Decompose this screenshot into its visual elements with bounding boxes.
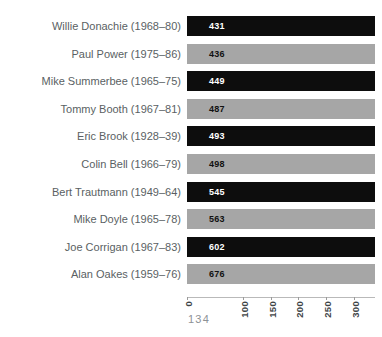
category-label: Mike Summerbee (1965–75): [42, 71, 181, 91]
x-tick-label: 250: [322, 301, 333, 318]
bar-value-label: 436: [209, 44, 225, 64]
x-tick-mark: [298, 297, 299, 300]
bar-value-label: 602: [209, 237, 225, 257]
bar-value-label: 493: [209, 126, 225, 146]
bar-chart: Willie Donachie (1968–80)Paul Power (197…: [0, 0, 382, 337]
bar-row: 545: [187, 182, 375, 202]
bar-value-label: 545: [209, 182, 225, 202]
bar-row: 563: [187, 209, 375, 229]
bar-row: 449: [187, 71, 375, 91]
category-label: Willie Donachie (1968–80): [52, 16, 181, 36]
bar-value-label: 487: [209, 99, 225, 119]
page-number: 134: [188, 313, 210, 325]
x-tick-label: 100: [239, 301, 250, 318]
x-tick-mark: [326, 297, 327, 300]
category-label: Alan Oakes (1959–76): [71, 264, 181, 284]
bar-row: 602: [187, 237, 375, 257]
plot-area: 431436449487493498545563602676: [187, 12, 375, 297]
bar-value-label: 676: [209, 264, 225, 284]
x-tick-mark: [354, 297, 355, 300]
category-axis-labels: Willie Donachie (1968–80)Paul Power (197…: [0, 12, 181, 297]
x-tick-label: 200: [294, 301, 305, 318]
bar-row: 676: [187, 264, 375, 284]
x-tick-mark: [271, 297, 272, 300]
x-tick-mark: [187, 297, 188, 300]
x-tick-mark: [243, 297, 244, 300]
category-label: Mike Doyle (1965–78): [73, 209, 181, 229]
category-label: Joe Corrigan (1967–83): [65, 237, 181, 257]
x-tick-label: 0: [183, 301, 194, 307]
x-tick-label: 300: [350, 301, 361, 318]
bar-value-label: 498: [209, 154, 225, 174]
x-tick-label: 150: [267, 301, 278, 318]
bar-value-label: 431: [209, 16, 225, 36]
category-label: Eric Brook (1928–39): [77, 126, 181, 146]
category-label: Paul Power (1975–86): [72, 44, 181, 64]
bar-value-label: 449: [209, 71, 225, 91]
category-label: Colin Bell (1966–79): [81, 154, 181, 174]
bar-row: 487: [187, 99, 375, 119]
bar-row: 493: [187, 126, 375, 146]
bar-value-label: 563: [209, 209, 225, 229]
x-axis-line: [187, 297, 375, 298]
bar-row: 436: [187, 44, 375, 64]
category-label: Tommy Booth (1967–81): [61, 99, 181, 119]
category-label: Bert Trautmann (1949–64): [52, 182, 181, 202]
bar-row: 431: [187, 16, 375, 36]
bar-row: 498: [187, 154, 375, 174]
